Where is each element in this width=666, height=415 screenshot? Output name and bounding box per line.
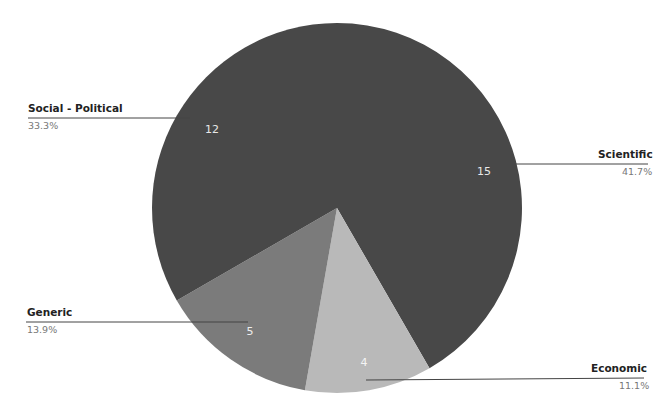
- category-label-scientific: Scientific: [598, 148, 653, 160]
- percent-label-economic: 11.1%: [619, 380, 649, 391]
- percent-label-social-political: 33.3%: [28, 120, 58, 131]
- pie-chart: 12 15 5 4 Social - Political 33.3% Scien…: [0, 0, 666, 415]
- value-label-social: 12: [205, 123, 219, 136]
- pie-slices: [152, 23, 522, 393]
- value-label-scientific: 15: [477, 165, 491, 178]
- pie-chart-canvas: 12 15 5 4: [0, 0, 666, 415]
- category-label-social-political: Social - Political: [28, 102, 123, 114]
- percent-label-scientific: 41.7%: [622, 166, 652, 177]
- value-label-generic: 5: [247, 325, 254, 338]
- category-label-generic: Generic: [27, 306, 72, 318]
- category-label-economic: Economic: [591, 362, 647, 374]
- value-label-economic: 4: [361, 356, 368, 369]
- percent-label-generic: 13.9%: [27, 324, 57, 335]
